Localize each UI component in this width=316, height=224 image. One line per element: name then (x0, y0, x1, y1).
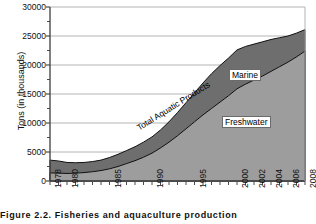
x-tick-label: 2008 (309, 169, 316, 188)
x-tick-label: 2002 (258, 169, 267, 188)
marine-series-label: Marine (229, 69, 261, 81)
x-tick-label: 1995 (199, 169, 208, 188)
figure-container: Tons (in thousands) 30000250002000015000… (0, 0, 316, 224)
x-tick-label: 1978 (54, 169, 63, 188)
freshwater-series-label: Freshwater (222, 116, 271, 128)
x-tick-label: 2000 (241, 169, 250, 188)
x-tick-label: 1980 (71, 169, 80, 188)
x-tick-label: 2004 (275, 169, 284, 188)
x-tick-label: 2006 (292, 169, 301, 188)
x-tick-label: 1990 (156, 169, 165, 188)
x-tick-label: 1985 (114, 169, 123, 188)
figure-caption: Figure 2.2. Fisheries and aquaculture pr… (0, 210, 316, 224)
